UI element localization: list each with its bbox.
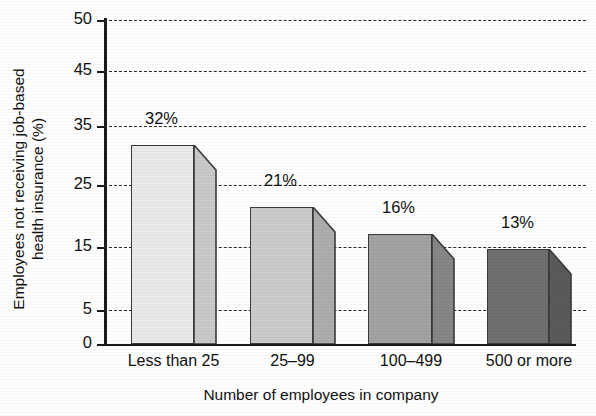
bar-value-label: 13% xyxy=(501,213,534,232)
y-tick-label: 50 xyxy=(52,9,92,28)
bar[interactable] xyxy=(131,145,216,344)
y-axis-tick xyxy=(97,344,104,346)
y-tick-label: 15 xyxy=(52,236,92,255)
y-axis-title: Employees not receiving job-based health… xyxy=(0,0,56,378)
y-tick-label: 5 xyxy=(52,299,92,318)
bar[interactable] xyxy=(368,234,454,344)
bar-side-face xyxy=(312,207,336,344)
bar-side-face xyxy=(431,234,455,344)
bar-value-label: 32% xyxy=(145,109,178,128)
y-axis-title-line-1: Employees not receiving job-based xyxy=(9,68,28,309)
x-axis-title: Number of employees in company xyxy=(56,386,586,404)
y-tick-label: 45 xyxy=(52,60,92,79)
x-tick-label: 500 or more xyxy=(447,352,596,370)
y-axis-tick xyxy=(97,185,104,187)
y-tick-label: 0 xyxy=(52,333,92,352)
chart-figure: Employees not receiving job-based health… xyxy=(0,0,596,416)
y-axis-tick xyxy=(97,20,104,22)
bar-front-face xyxy=(368,234,432,344)
y-axis-tick xyxy=(97,71,104,73)
gridline xyxy=(104,20,586,21)
bar-value-label: 21% xyxy=(264,171,297,190)
bar-side-face xyxy=(548,249,572,344)
bar-front-face xyxy=(131,145,194,344)
plot-area xyxy=(104,18,586,346)
y-axis-title-line-2: health insurance (%) xyxy=(28,68,47,309)
y-axis-tick xyxy=(97,310,104,312)
y-tick-label: 35 xyxy=(52,115,92,134)
bar[interactable] xyxy=(250,207,335,344)
bar[interactable] xyxy=(487,249,571,344)
gridline xyxy=(104,71,586,72)
y-tick-label: 25 xyxy=(52,174,92,193)
bar-front-face xyxy=(487,249,549,344)
bar-value-label: 16% xyxy=(382,198,415,217)
y-axis-tick xyxy=(97,126,104,128)
y-axis-tick xyxy=(97,247,104,249)
bar-side-face xyxy=(193,145,217,344)
bar-front-face xyxy=(250,207,313,344)
